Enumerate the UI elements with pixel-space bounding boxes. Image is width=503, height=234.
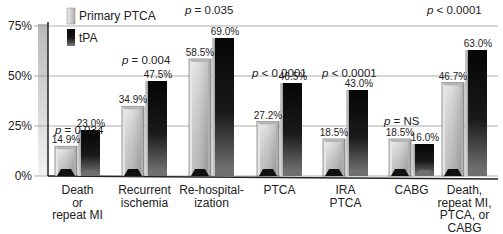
bar-chart: 0%25%50%75%14.9%23.0%p = 0.034Deathorrep…: [0, 0, 503, 233]
bar-tpa: [212, 38, 234, 176]
p-value-label: p < 0.0001: [426, 4, 482, 16]
bar-tpa: [412, 144, 434, 176]
y-tick-label: 50%: [8, 69, 32, 83]
x-category-label: CABG: [447, 221, 481, 234]
value-label-primary-ptca: 34.9%: [119, 94, 147, 105]
p-value-label: p = 0.004: [121, 54, 171, 66]
value-label-tpa: 47.5%: [144, 69, 172, 80]
y-tick-label: 75%: [8, 19, 32, 33]
x-axis-line: [48, 176, 498, 179]
x-category-label: ization: [194, 196, 229, 210]
x-category-label: repeat MI: [52, 208, 103, 222]
value-label-primary-ptca: 27.2%: [254, 110, 282, 121]
p-value-label: p = NS: [383, 115, 420, 127]
x-category-label: PTCA: [263, 183, 295, 197]
legend: Primary PTCA tPA: [67, 8, 156, 46]
legend-label-primary-ptca: Primary PTCA: [79, 9, 156, 23]
value-label-primary-ptca: 46.7%: [439, 71, 467, 82]
y-tick-label: 25%: [8, 119, 32, 133]
legend-label-tpa: tPA: [79, 31, 97, 45]
bar-primary-ptca: [323, 139, 345, 176]
value-label-tpa: 43.0%: [345, 78, 373, 89]
bar-primary-ptca: [389, 139, 411, 176]
x-category-label: ischemia: [121, 196, 169, 210]
y-axis-wall: [38, 24, 48, 176]
bars-layer: [55, 38, 487, 176]
bar-primary-ptca: [122, 106, 144, 176]
p-value-label: p = 0.035: [184, 4, 233, 16]
x-category-label: CABG: [394, 183, 428, 197]
bar-primary-ptca: [189, 59, 211, 176]
bar-tpa: [280, 83, 302, 176]
value-label-primary-ptca: 58.5%: [186, 47, 214, 58]
legend-swatch-tpa: [67, 29, 75, 46]
legend-swatch-primary-ptca: [67, 8, 75, 24]
value-label-tpa: 16.0%: [411, 132, 439, 143]
p-value-label: p = 0.034: [54, 124, 104, 136]
bar-tpa: [145, 81, 167, 176]
p-value-label: p < 0.0001: [251, 67, 307, 79]
value-label-tpa: 69.0%: [211, 26, 239, 37]
bar-primary-ptca: [55, 146, 77, 176]
bar-primary-ptca: [442, 83, 464, 176]
bar-tpa: [346, 90, 368, 176]
bar-primary-ptca: [257, 122, 279, 176]
value-label-tpa: 63.0%: [464, 38, 492, 49]
x-category-label: PTCA: [329, 196, 361, 210]
bar-tpa: [78, 130, 100, 176]
p-value-label: p < 0.0001: [321, 67, 377, 79]
bar-tpa: [465, 50, 487, 176]
y-tick-label: 0%: [15, 169, 33, 183]
value-label-primary-ptca: 18.5%: [320, 127, 348, 138]
